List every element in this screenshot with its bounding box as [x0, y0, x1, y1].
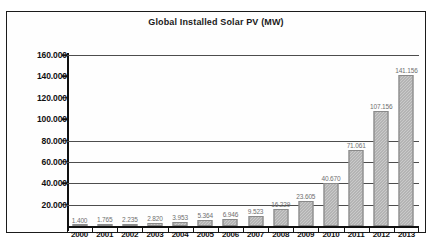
bar-value-label: 71.061: [347, 142, 366, 149]
plot-area: 1.4001.7652.2352.8203.9535.3646.9469.523…: [67, 55, 419, 226]
bar-slot: 6.946: [218, 55, 243, 226]
bar-value-label: 5.364: [198, 212, 214, 219]
bar-value-label: 2.235: [122, 216, 138, 223]
x-tick-label: 2010: [318, 228, 343, 239]
bar-value-label: 16.229: [271, 201, 290, 208]
bar[interactable]: [273, 209, 288, 226]
x-tick-label: 2011: [344, 228, 369, 239]
bar-value-label: 3.953: [172, 214, 188, 221]
x-tick-label: 2002: [117, 228, 142, 239]
bar-value-label: 107.156: [370, 103, 392, 110]
x-tick-label: 2007: [243, 228, 268, 239]
y-tick-label: 100.000: [13, 114, 67, 124]
bar-value-label: 2.820: [147, 215, 163, 222]
bar-slot: 5.364: [193, 55, 218, 226]
bar-slot: 1.400: [67, 55, 92, 226]
bar-value-label: 141.156: [395, 67, 417, 74]
bar-slot: 141.156: [394, 55, 419, 226]
bar-value-label: 1.765: [97, 216, 113, 223]
bar[interactable]: [349, 150, 364, 226]
bar[interactable]: [298, 201, 313, 226]
x-tick-label: 2006: [218, 228, 243, 239]
bar-value-label: 9.523: [248, 208, 264, 215]
bar-slot: 9.523: [243, 55, 268, 226]
y-axis: 160.000140.000120.000100.00080.00060.000…: [7, 12, 67, 232]
bar[interactable]: [323, 183, 338, 226]
bar-slot: 3.953: [168, 55, 193, 226]
x-tick-label: 2004: [168, 228, 193, 239]
x-tick-label: 2012: [369, 228, 394, 239]
x-tick-label: 2008: [268, 228, 293, 239]
bar[interactable]: [248, 216, 263, 226]
bar-slot: 16.229: [268, 55, 293, 226]
bar-slot: 2.820: [142, 55, 167, 226]
y-tick-label: 140.000: [13, 71, 67, 81]
y-tick-label: 160.000: [13, 50, 67, 60]
x-axis: 2000200120022003200420052006200720082009…: [67, 228, 419, 239]
bar-value-label: 23.605: [296, 193, 315, 200]
bar-value-label: 40.670: [321, 175, 340, 182]
y-tick-label: 40.000: [13, 178, 67, 188]
bar-slot: 107.156: [369, 55, 394, 226]
bar-slot: 1.765: [92, 55, 117, 226]
y-tick-label: 120.000: [13, 93, 67, 103]
bar-slot: 23.605: [293, 55, 318, 226]
bar-slot: 71.061: [344, 55, 369, 226]
bar-value-label: 1.400: [72, 217, 88, 224]
x-tick-label: 2009: [293, 228, 318, 239]
bar[interactable]: [223, 219, 238, 226]
x-tick-label: 2005: [193, 228, 218, 239]
bar-value-label: 6.946: [223, 211, 239, 218]
y-tick-label: 20.000: [13, 200, 67, 210]
x-tick-label: 2000: [67, 228, 92, 239]
bar[interactable]: [399, 75, 414, 226]
y-tick-label: 80.000: [13, 136, 67, 146]
chart-figure: Global Installed Solar PV (MW) 160.00014…: [6, 11, 426, 233]
chart-title: Global Installed Solar PV (MW): [7, 17, 425, 27]
bar[interactable]: [374, 111, 389, 226]
y-tick-label: 60.000: [13, 157, 67, 167]
x-tick-label: 2013: [394, 228, 419, 239]
x-tick-label: 2003: [142, 228, 167, 239]
bar-slot: 40.670: [318, 55, 343, 226]
x-tick-label: 2001: [92, 228, 117, 239]
bar-slot: 2.235: [117, 55, 142, 226]
